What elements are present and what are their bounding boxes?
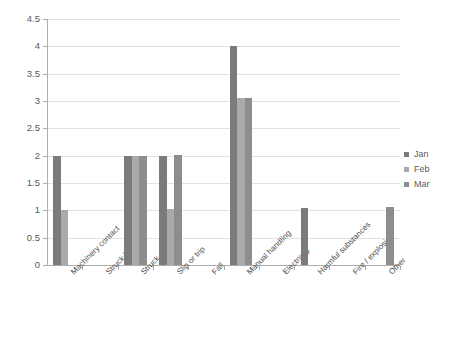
legend-item: Mar (404, 177, 430, 192)
x-category-label: Other (387, 270, 393, 276)
bar-jan (230, 46, 238, 265)
bar-mar (139, 156, 147, 265)
legend-label: Feb (414, 165, 430, 174)
y-axis-line (47, 19, 48, 266)
y-tick-label: 3.5 (0, 69, 40, 79)
y-tick-mark (43, 238, 47, 239)
gridline (47, 128, 400, 129)
bar-chart: 00.511.522.533.544.5 Machinery contactSt… (0, 0, 461, 338)
bar-jan (124, 156, 132, 265)
y-tick-label: 0.5 (0, 233, 40, 243)
bar-feb (237, 98, 245, 265)
y-tick-mark (43, 74, 47, 75)
y-tick-label: 4 (0, 41, 40, 51)
bar-mar (386, 207, 394, 265)
y-tick-label: 3 (0, 96, 40, 106)
legend-item: Feb (404, 162, 430, 177)
x-category-label: Struck against (139, 270, 145, 276)
gridline (47, 210, 400, 211)
bar-mar (245, 98, 253, 265)
bar-mar (174, 155, 182, 265)
y-tick-mark (43, 128, 47, 129)
gridline (47, 19, 400, 20)
y-tick-label: 2.5 (0, 123, 40, 133)
y-tick-label: 1.5 (0, 178, 40, 188)
y-tick-mark (43, 46, 47, 47)
legend-label: Jan (414, 150, 429, 159)
y-tick-mark (43, 101, 47, 102)
x-category-label: Manual handling (245, 270, 251, 276)
x-category-label: Struck by (104, 270, 110, 276)
legend-item: Jan (404, 147, 430, 162)
bar-feb (61, 210, 69, 265)
y-tick-mark (43, 210, 47, 211)
legend-swatch-icon (404, 182, 409, 187)
gridline (47, 183, 400, 184)
x-category-label: Harmful substances (316, 270, 322, 276)
bar-feb (167, 209, 175, 265)
legend: JanFebMar (404, 147, 430, 192)
x-category-label: Fall (210, 270, 216, 276)
plot-area (47, 19, 400, 265)
legend-label: Mar (414, 180, 430, 189)
legend-swatch-icon (404, 152, 409, 157)
y-tick-label: 2 (0, 151, 40, 161)
bar-jan (53, 156, 61, 265)
gridline (47, 156, 400, 157)
bar-jan (301, 208, 309, 265)
bar-jan (159, 156, 167, 265)
y-tick-mark (43, 183, 47, 184)
gridline (47, 74, 400, 75)
y-tick-mark (43, 156, 47, 157)
y-tick-mark (43, 265, 47, 266)
y-tick-label: 4.5 (0, 14, 40, 24)
gridline (47, 46, 400, 47)
gridline (47, 101, 400, 102)
x-category-label: Fire / explosion (351, 270, 357, 276)
x-category-label: Machinery contact (69, 270, 75, 276)
y-tick-mark (43, 19, 47, 20)
bar-feb (132, 156, 140, 265)
x-category-label: Slip or trip (175, 270, 181, 276)
y-tick-label: 0 (0, 260, 40, 270)
y-tick-label: 1 (0, 205, 40, 215)
x-category-label: Electricity (281, 270, 287, 276)
legend-swatch-icon (404, 167, 409, 172)
